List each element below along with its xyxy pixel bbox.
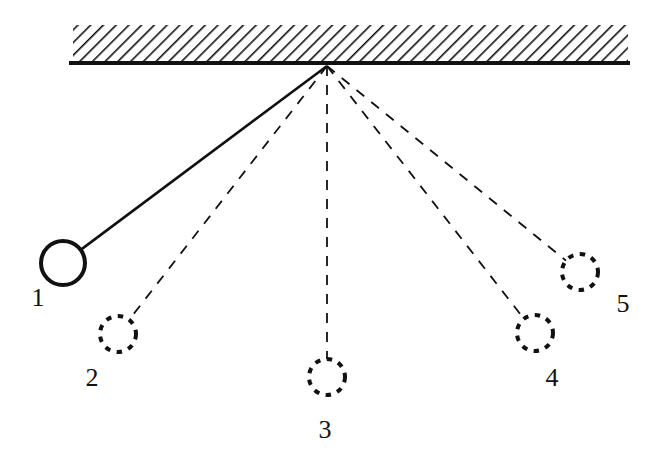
label-position-4: 4 <box>546 363 559 392</box>
bob-position-4 <box>517 315 553 351</box>
string-1 <box>81 66 327 250</box>
bob-position-1 <box>41 241 85 285</box>
label-position-2: 2 <box>86 363 99 392</box>
label-position-5: 5 <box>617 289 630 318</box>
bob-position-2 <box>100 316 136 352</box>
ceiling-hatch <box>73 25 628 63</box>
label-position-1: 1 <box>32 283 45 312</box>
diagram-canvas: 12345 <box>0 0 663 459</box>
pendulum-diagram: 12345 <box>0 0 663 459</box>
string-5 <box>327 66 566 261</box>
pendulum-strings <box>81 66 566 359</box>
position-labels: 12345 <box>32 283 630 444</box>
string-4 <box>327 66 524 319</box>
label-position-3: 3 <box>319 415 332 444</box>
ceiling-support <box>69 25 630 63</box>
bob-position-3 <box>309 359 345 395</box>
pendulum-bobs <box>41 241 598 395</box>
bob-position-5 <box>562 254 598 290</box>
